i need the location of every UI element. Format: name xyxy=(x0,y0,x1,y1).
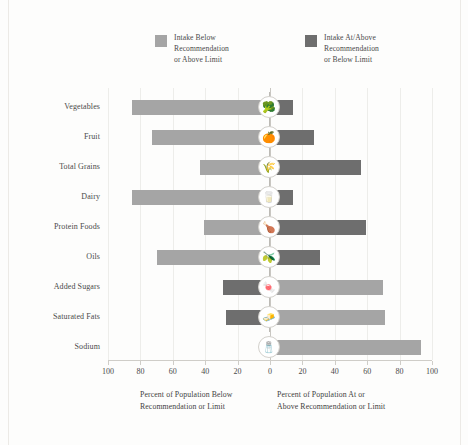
x-tick-mark xyxy=(270,361,271,365)
x-tick-mark xyxy=(367,361,368,365)
bar-right xyxy=(270,310,385,325)
x-tick-label: 0 xyxy=(257,367,283,376)
chart-page: Intake Below Recommendation or Above Lim… xyxy=(0,0,468,445)
bar-right xyxy=(270,160,361,175)
y-tick-label-sodium: Sodium xyxy=(8,342,100,351)
x-tick-mark xyxy=(173,361,174,365)
x-tick-label: 100 xyxy=(95,367,121,376)
x-tick-mark xyxy=(108,361,109,365)
bar-row: 🥛 xyxy=(108,182,432,212)
x-caption-left: Percent of Population Below Recommendati… xyxy=(140,389,270,412)
x-tick-label: 20 xyxy=(225,367,251,376)
x-tick-label: 60 xyxy=(354,367,380,376)
y-tick-label-vegetables: Vegetables xyxy=(8,102,100,111)
bar-row: 🧈 xyxy=(108,302,432,332)
protein-foods-icon: 🍗 xyxy=(258,216,280,238)
x-axis-ticks: 10080604020020406080100 xyxy=(108,361,432,379)
bar-row: 🧂 xyxy=(108,332,432,362)
x-tick-label: 100 xyxy=(419,367,445,376)
y-tick-label-fruit: Fruit xyxy=(8,132,100,141)
y-tick-label-saturated-fats: Saturated Fats xyxy=(8,312,100,321)
x-tick-label: 20 xyxy=(289,367,315,376)
x-tick-mark xyxy=(335,361,336,365)
bar-left xyxy=(132,190,270,205)
x-tick-label: 80 xyxy=(387,367,413,376)
chart-legend: Intake Below Recommendation or Above Lim… xyxy=(150,33,440,75)
bar-row: 🍗 xyxy=(108,212,432,242)
sodium-icon: 🧂 xyxy=(258,336,280,358)
bar-row: 🥦 xyxy=(108,92,432,122)
legend-item-at-above: Intake At/Above Recommendation or Below … xyxy=(305,33,379,65)
x-tick-mark xyxy=(140,361,141,365)
page-edge-right xyxy=(460,0,461,445)
bar-row: 🍊 xyxy=(108,122,432,152)
y-tick-label-protein-foods: Protein Foods xyxy=(8,222,100,231)
x-caption-right: Percent of Population At or Above Recomm… xyxy=(277,389,427,412)
bar-right xyxy=(270,220,366,235)
legend-label-below: Intake Below Recommendation or Above Lim… xyxy=(174,33,229,65)
x-tick-label: 60 xyxy=(160,367,186,376)
x-tick-mark xyxy=(238,361,239,365)
x-tick-mark xyxy=(302,361,303,365)
y-tick-label-added-sugars: Added Sugars xyxy=(8,282,100,291)
legend-item-below: Intake Below Recommendation or Above Lim… xyxy=(155,33,229,65)
y-tick-label-dairy: Dairy xyxy=(8,192,100,201)
gridline xyxy=(432,88,433,360)
legend-swatch-below xyxy=(155,35,167,47)
x-tick-mark xyxy=(400,361,401,365)
y-axis-tick-labels: VegetablesFruitTotal GrainsDairyProtein … xyxy=(8,88,108,360)
vegetables-icon: 🥦 xyxy=(258,96,280,118)
bar-row: 🍬 xyxy=(108,272,432,302)
bar-left xyxy=(132,100,270,115)
x-tick-label: 40 xyxy=(192,367,218,376)
y-tick-label-oils: Oils xyxy=(8,252,100,261)
fruit-icon: 🍊 xyxy=(258,126,280,148)
oils-icon: 🫒 xyxy=(258,246,280,268)
bar-left xyxy=(157,250,270,265)
bar-right xyxy=(270,340,421,355)
x-tick-label: 40 xyxy=(322,367,348,376)
dairy-icon: 🥛 xyxy=(258,186,280,208)
y-tick-label-total-grains: Total Grains xyxy=(8,162,100,171)
legend-swatch-at-above xyxy=(305,35,317,47)
bar-row: 🫒 xyxy=(108,242,432,272)
x-tick-label: 80 xyxy=(127,367,153,376)
bar-row: 🌾 xyxy=(108,152,432,182)
bar-right xyxy=(270,280,383,295)
x-tick-mark xyxy=(205,361,206,365)
plot-area: 🥦🍊🌾🥛🍗🫒🍬🧈🧂 xyxy=(108,88,432,360)
x-tick-mark xyxy=(432,361,433,365)
legend-label-at-above: Intake At/Above Recommendation or Below … xyxy=(324,33,379,65)
saturated-fats-icon: 🧈 xyxy=(258,306,280,328)
added-sugars-icon: 🍬 xyxy=(258,276,280,298)
bar-left xyxy=(152,130,270,145)
grains-icon: 🌾 xyxy=(258,156,280,178)
